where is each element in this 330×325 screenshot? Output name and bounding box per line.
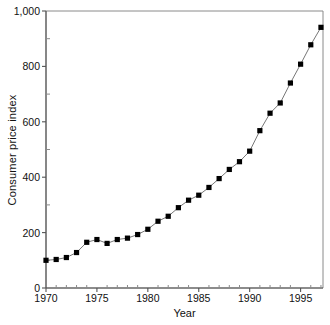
x-tick-label: 1970: [34, 292, 57, 304]
chart-figure: Consumer price index 02004006008001,000 …: [0, 0, 330, 325]
tick-marks: [42, 11, 321, 292]
y-tick-label: 600: [0, 116, 40, 128]
y-tick-label: 1,000: [0, 5, 40, 17]
x-tick-label: 1980: [136, 292, 159, 304]
x-axis-title: Year: [46, 307, 323, 319]
x-tick-label: 1995: [289, 292, 312, 304]
y-tick-label: 800: [0, 60, 40, 72]
y-tick-label: 200: [0, 227, 40, 239]
data-series: [43, 25, 323, 263]
y-tick-label: 400: [0, 171, 40, 183]
x-tick-label: 1975: [85, 292, 108, 304]
axes: [46, 11, 323, 288]
line-chart-plot: [0, 0, 330, 325]
x-tick-label: 1985: [187, 292, 210, 304]
x-tick-label: 1990: [238, 292, 261, 304]
